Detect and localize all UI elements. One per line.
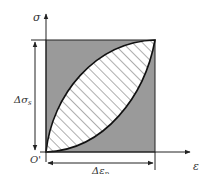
stress-range-label: Δσs [13, 94, 32, 107]
stress-axis-label: σ [33, 11, 41, 24]
strain-range-label: Δεp [91, 165, 110, 174]
hysteresis-diagram: σ ε O' Δσs Δεp [0, 0, 212, 174]
strain-axis-label: ε [193, 160, 199, 173]
origin-label: O' [30, 154, 41, 165]
